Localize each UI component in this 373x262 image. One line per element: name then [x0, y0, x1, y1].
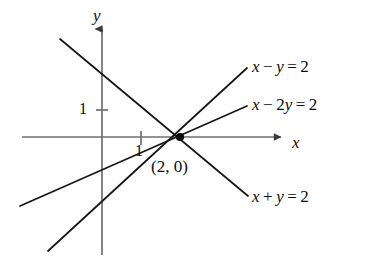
equation-label-x-minus-y: x−y=2 — [252, 58, 309, 75]
eq2-operator: − — [263, 95, 273, 114]
y-axis-label: y — [93, 7, 101, 24]
axis-group — [22, 29, 281, 255]
eq1-rhs: 2 — [300, 57, 309, 76]
eq2-lhs-x: x — [252, 95, 260, 114]
plotted-lines — [20, 39, 248, 251]
eq2-rhs: 2 — [309, 95, 318, 114]
eq2-lhs-y: y — [285, 95, 293, 114]
figure-canvas: y x 1 1 (2, 0) x−y=2 x−2y=2 x+y=2 — [0, 0, 373, 262]
equation-label-x-minus-2y: x−2y=2 — [252, 96, 317, 113]
line-x-minus-2y — [20, 106, 247, 206]
equation-label-x-plus-y: x+y=2 — [252, 188, 309, 205]
x-axis-tick-label: 1 — [135, 143, 143, 159]
graph-svg — [0, 0, 373, 262]
eq1-relation: = — [287, 57, 297, 76]
eq1-operator: − — [263, 57, 273, 76]
y-axis-tick-label: 1 — [79, 101, 87, 117]
eq1-lhs-x: x — [252, 57, 260, 76]
intersection-point-label: (2, 0) — [151, 158, 188, 175]
eq3-operator: + — [263, 187, 273, 206]
intersection-point-marker — [176, 133, 184, 141]
eq3-lhs-y: y — [276, 187, 284, 206]
eq2-relation: = — [296, 95, 306, 114]
x-axis-label: x — [292, 134, 300, 151]
eq3-rhs: 2 — [300, 187, 309, 206]
eq1-lhs-y: y — [276, 57, 284, 76]
line-x-minus-y — [48, 68, 247, 251]
eq3-relation: = — [287, 187, 297, 206]
eq2-coefficient: 2 — [276, 95, 285, 114]
eq3-lhs-x: x — [252, 187, 260, 206]
